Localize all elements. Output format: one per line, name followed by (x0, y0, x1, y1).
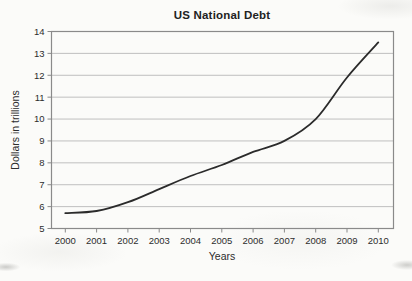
y-tick-label: 10 (34, 113, 45, 124)
line-chart-canvas: 5678910111213142000200120022003200420052… (0, 0, 412, 281)
scanned-chart-figure: US National Debt Dollars in trillions Ye… (0, 0, 412, 281)
y-tick-label: 11 (35, 92, 45, 103)
plot-frame (52, 32, 394, 229)
x-tick-label: 2004 (180, 235, 201, 246)
x-tick-label: 2009 (336, 235, 357, 246)
x-tick-label: 2000 (55, 235, 76, 246)
y-tick-label: 7 (39, 179, 44, 190)
y-tick-label: 9 (39, 135, 44, 146)
y-tick-label: 12 (34, 70, 45, 81)
y-tick-label: 13 (34, 48, 45, 59)
x-tick-label: 2008 (305, 235, 326, 246)
x-tick-label: 2003 (149, 235, 170, 246)
debt-line (65, 42, 378, 213)
x-tick-label: 2005 (211, 235, 232, 246)
x-tick-label: 2002 (117, 235, 138, 246)
y-tick-label: 5 (39, 223, 44, 234)
x-tick-label: 2010 (368, 235, 389, 246)
y-tick-label: 6 (39, 201, 44, 212)
x-tick-label: 2006 (243, 235, 264, 246)
y-tick-label: 14 (34, 26, 45, 37)
x-tick-label: 2007 (274, 235, 295, 246)
y-tick-label: 8 (39, 157, 44, 168)
x-tick-label: 2001 (86, 235, 107, 246)
